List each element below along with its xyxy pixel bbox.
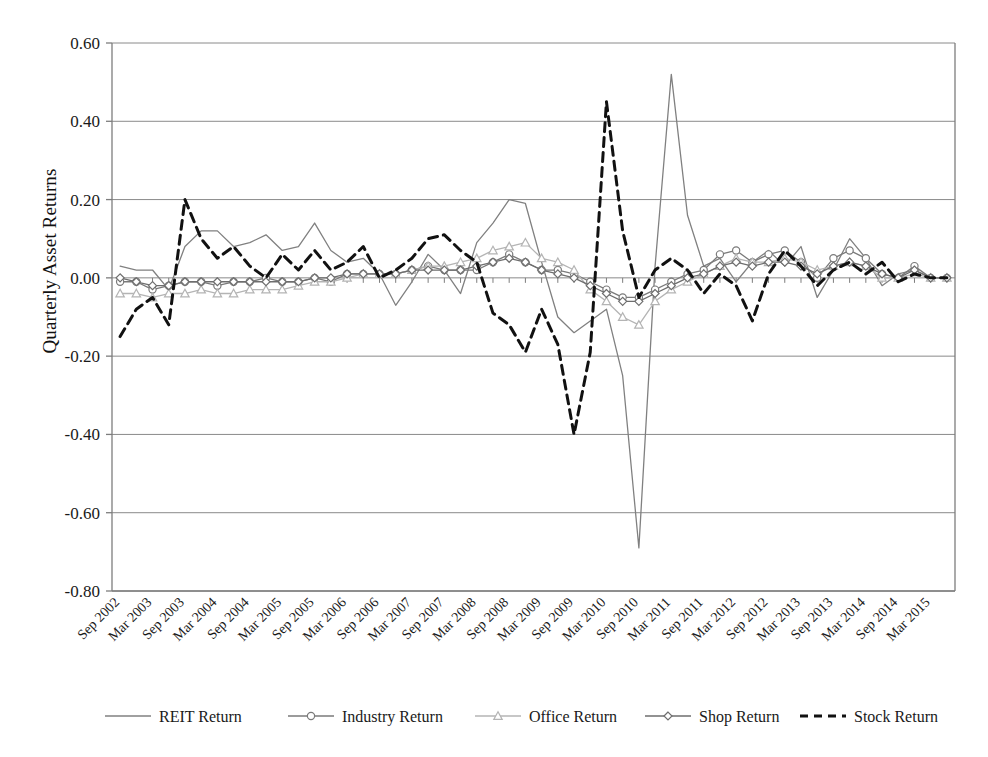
legend-label: Office Return xyxy=(529,708,617,725)
legend-item-stock-return[interactable]: Stock Return xyxy=(800,708,938,725)
series-marker xyxy=(521,238,529,246)
legend-label: REIT Return xyxy=(159,708,242,725)
series-layer xyxy=(116,74,951,548)
legend-label: Shop Return xyxy=(699,708,779,726)
y-tick-label: -0.80 xyxy=(65,582,100,601)
y-tick-label: -0.20 xyxy=(65,347,100,366)
series-marker xyxy=(664,712,672,720)
y-tick-label: 0.40 xyxy=(70,112,100,131)
x-axis-tick-labels: Sep 2002Mar 2003Sep 2003Mar 2004Sep 2004… xyxy=(74,595,932,644)
legend-item-office-return[interactable]: Office Return xyxy=(475,708,617,725)
series-marker xyxy=(307,712,314,719)
line-chart-plot: 0.600.400.200.00-0.20-0.40-0.60-0.80 Sep… xyxy=(0,0,988,757)
gridlines xyxy=(106,43,955,591)
series-marker xyxy=(635,321,643,329)
series-line xyxy=(120,74,947,548)
chart-legend: REIT ReturnIndustry ReturnOffice ReturnS… xyxy=(105,708,938,726)
y-tick-label: 0.60 xyxy=(70,34,100,53)
y-tick-label: -0.40 xyxy=(65,425,100,444)
series-marker xyxy=(716,251,723,258)
legend-item-reit-return[interactable]: REIT Return xyxy=(105,708,242,725)
legend-item-shop-return[interactable]: Shop Return xyxy=(645,708,779,726)
y-tick-label: -0.60 xyxy=(65,504,100,523)
y-tick-label: 0.00 xyxy=(70,269,100,288)
series-marker xyxy=(846,247,853,254)
legend-label: Stock Return xyxy=(854,708,938,725)
series-line xyxy=(120,243,947,325)
series-marker xyxy=(570,266,578,274)
y-tick-label: 0.20 xyxy=(70,191,100,210)
series-shop-return xyxy=(116,254,951,305)
y-axis-tick-labels: 0.600.400.200.00-0.20-0.40-0.60-0.80 xyxy=(65,34,100,601)
chart-container: Quarterly Asset Returns 0.600.400.200.00… xyxy=(0,0,988,757)
legend-item-industry-return[interactable]: Industry Return xyxy=(288,708,443,726)
series-reit-return xyxy=(120,74,947,548)
legend-label: Industry Return xyxy=(342,708,443,726)
